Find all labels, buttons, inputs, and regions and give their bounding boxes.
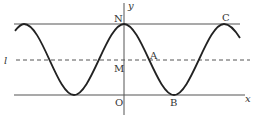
origin-label: O [115,97,123,108]
point-c-label: C [222,12,230,23]
point-a-label: A [149,50,158,61]
diagram-canvas: l y N M O A B C x [0,0,256,121]
point-b-label: B [170,97,177,108]
line-l-label: l [4,55,7,66]
y-axis-label: y [127,0,134,11]
point-n-label: N [114,13,123,24]
point-m-label: M [114,63,124,74]
x-axis-label: x [245,93,251,104]
